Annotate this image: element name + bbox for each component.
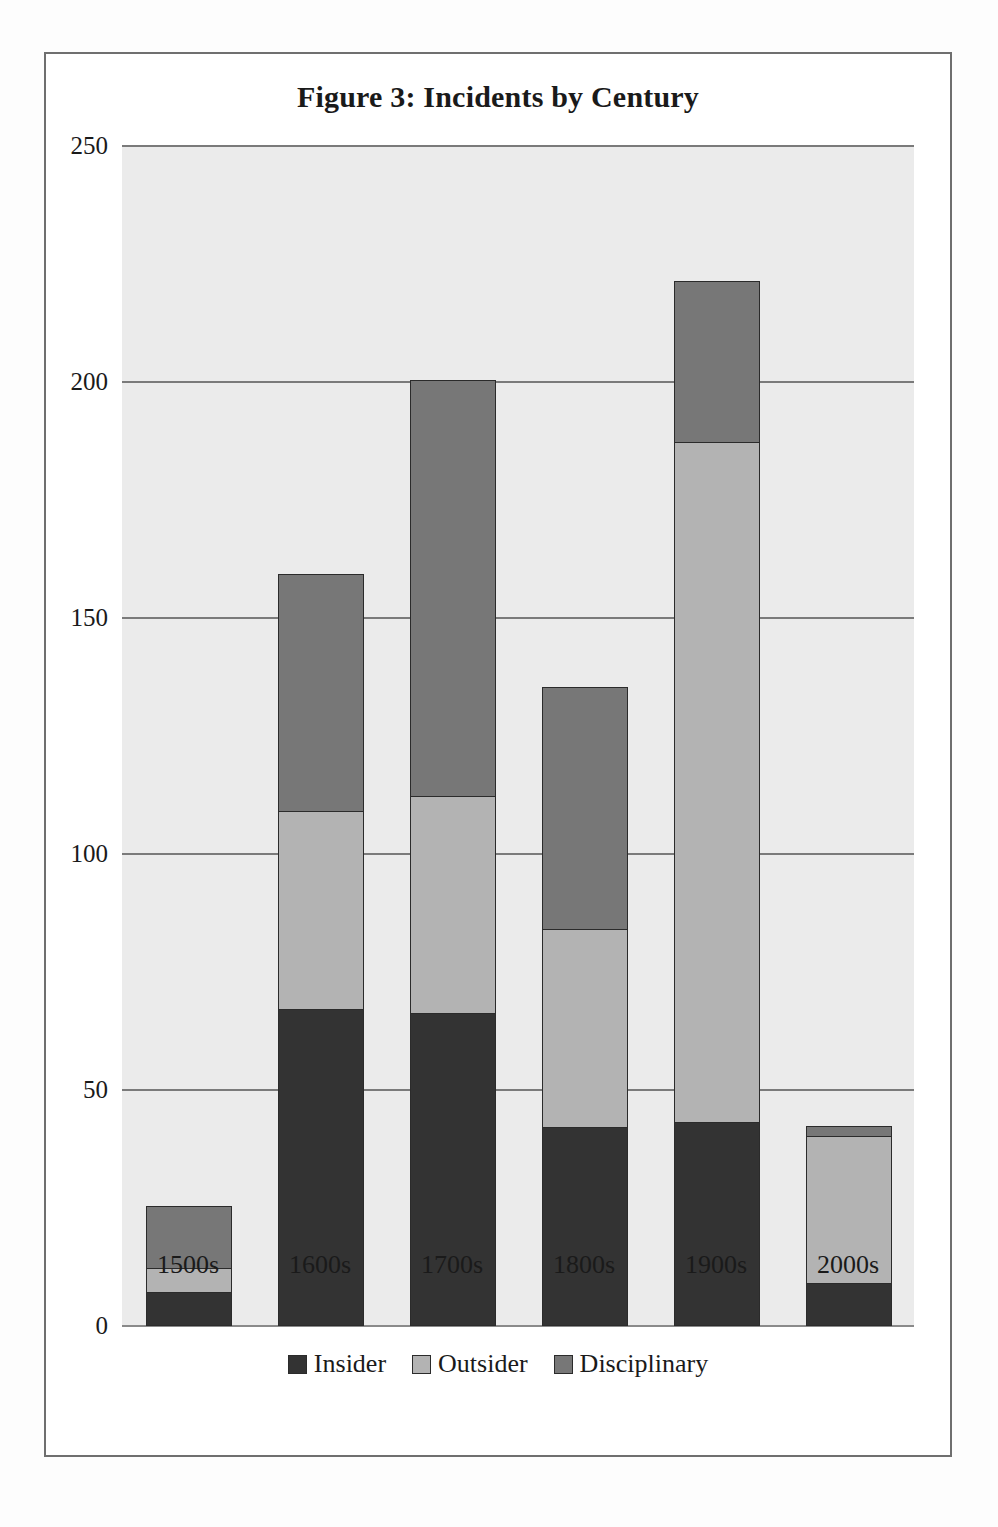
x-tick-label: 1500s [122, 1250, 254, 1280]
legend-swatch-icon [554, 1355, 573, 1374]
bar-segment-disciplinary[interactable] [543, 688, 627, 929]
chart-title: Figure 3: Incidents by Century [46, 80, 950, 114]
figure-page: Figure 3: Incidents by Century 050100150… [0, 0, 998, 1527]
bar-segment-insider[interactable] [807, 1283, 891, 1325]
y-tick-label: 0 [96, 1312, 109, 1340]
chart-legend: InsiderOutsiderDisciplinary [46, 1349, 950, 1379]
x-tick-label: 2000s [782, 1250, 914, 1280]
bar-group[interactable] [542, 146, 626, 1326]
bar-stack[interactable] [278, 574, 364, 1326]
bars-layer [122, 146, 914, 1326]
x-tick-label: 1600s [254, 1250, 386, 1280]
figure-frame: Figure 3: Incidents by Century 050100150… [44, 52, 952, 1457]
bar-group[interactable] [278, 146, 362, 1326]
x-tick-label: 1700s [386, 1250, 518, 1280]
bar-segment-outsider[interactable] [675, 442, 759, 1122]
bar-segment-disciplinary[interactable] [675, 282, 759, 442]
plot-area: 050100150200250 [122, 146, 914, 1326]
y-tick-label: 50 [83, 1076, 108, 1104]
bar-stack[interactable] [542, 687, 628, 1326]
bar-segment-outsider[interactable] [411, 796, 495, 1013]
bar-segment-outsider[interactable] [279, 811, 363, 1009]
y-tick-label: 150 [71, 604, 109, 632]
legend-item[interactable]: Insider [288, 1349, 386, 1379]
legend-swatch-icon [288, 1355, 307, 1374]
y-tick-label: 100 [71, 840, 109, 868]
bar-stack[interactable] [806, 1126, 892, 1326]
bar-group[interactable] [674, 146, 758, 1326]
legend-swatch-icon [412, 1355, 431, 1374]
bar-stack[interactable] [410, 380, 496, 1326]
legend-label: Disciplinary [580, 1349, 709, 1379]
bar-group[interactable] [146, 146, 230, 1326]
bar-group[interactable] [806, 146, 890, 1326]
bar-segment-insider[interactable] [543, 1127, 627, 1325]
legend-label: Insider [314, 1349, 386, 1379]
bar-stack[interactable] [674, 281, 760, 1326]
bar-segment-insider[interactable] [675, 1122, 759, 1325]
bar-segment-outsider[interactable] [543, 929, 627, 1127]
bar-segment-disciplinary[interactable] [279, 575, 363, 811]
x-tick-label: 1800s [518, 1250, 650, 1280]
legend-label: Outsider [438, 1349, 528, 1379]
legend-item[interactable]: Outsider [412, 1349, 528, 1379]
bar-segment-disciplinary[interactable] [807, 1127, 891, 1136]
x-tick-label: 1900s [650, 1250, 782, 1280]
bar-segment-disciplinary[interactable] [411, 381, 495, 796]
bar-segment-insider[interactable] [147, 1292, 231, 1325]
bar-group[interactable] [410, 146, 494, 1326]
legend-item[interactable]: Disciplinary [554, 1349, 709, 1379]
y-tick-label: 200 [71, 368, 109, 396]
y-tick-label: 250 [71, 132, 109, 160]
